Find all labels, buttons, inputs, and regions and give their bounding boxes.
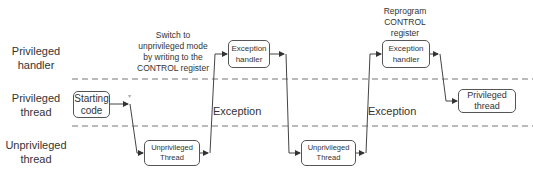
edge-label-exception-1: Exception: [213, 105, 261, 117]
note-reprogram-control: Reprogram CONTROL register: [370, 6, 440, 39]
note-line: Switch to: [156, 30, 191, 40]
note-line: register: [391, 28, 419, 38]
box-label: Starting: [74, 93, 108, 105]
note-line: CONTROL: [384, 17, 426, 27]
box-label: Unprivileged: [308, 143, 350, 153]
note-line: by writing to the: [143, 52, 203, 62]
box-label: Unprivileged: [151, 143, 193, 153]
box-label: Thread: [151, 153, 193, 163]
svg-text:▾: ▾: [128, 93, 131, 99]
box-label: handler: [231, 54, 266, 65]
box-unprivileged-thread-2: UnprivilegedThread: [301, 140, 356, 166]
box-exception-handler-2: Exceptionhandler: [382, 40, 430, 68]
box-label: thread: [467, 101, 507, 112]
box-starting-code: Startingcode: [73, 91, 110, 118]
box-label: Privileged: [467, 90, 507, 101]
box-unprivileged-thread-1: UnprivilegedThread: [144, 140, 200, 166]
box-label: Exception: [231, 43, 266, 54]
box-exception-handler-1: Exceptionhandler: [228, 40, 270, 68]
note-line: CONTROL register: [137, 63, 209, 73]
edge-label-exception-2: Exception: [368, 105, 416, 117]
box-label: Thread: [308, 153, 350, 163]
note-line: unprivileged mode: [138, 41, 207, 51]
box-label: code: [74, 105, 108, 117]
note-switch-to-unprivileged: Switch to unprivileged mode by writing t…: [118, 30, 228, 74]
diagram-lines: ▾: [0, 0, 533, 172]
box-label: Exception: [388, 43, 423, 54]
box-label: handler: [388, 54, 423, 65]
box-privileged-thread: Privilegedthread: [458, 89, 516, 113]
note-line: Reprogram: [384, 6, 427, 16]
